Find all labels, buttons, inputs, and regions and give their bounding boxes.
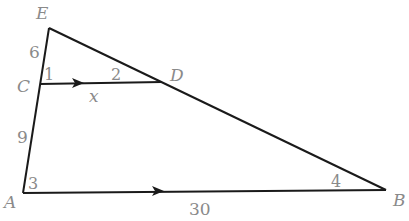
angle-label-2: 2: [111, 65, 121, 84]
segment-CD: [40, 82, 162, 84]
segment-label-CA: 9: [17, 127, 28, 147]
segment-label-AB: 30: [189, 199, 211, 219]
segment-label-EC: 6: [29, 42, 40, 62]
angle-label-1: 1: [44, 65, 54, 84]
angle-label-3: 3: [28, 174, 38, 193]
side-EB: [49, 28, 386, 190]
vertex-label-B: B: [392, 190, 406, 210]
angle-label-4: 4: [331, 172, 341, 191]
vertex-label-C: C: [17, 76, 30, 96]
vertex-label-A: A: [2, 192, 16, 212]
segment-label-CD: x: [89, 86, 99, 106]
vertex-label-D: D: [169, 65, 184, 85]
vertex-label-E: E: [35, 3, 49, 23]
triangle-diagram: E C D A B 6 9 x 30 1 2 3 4: [0, 0, 409, 221]
